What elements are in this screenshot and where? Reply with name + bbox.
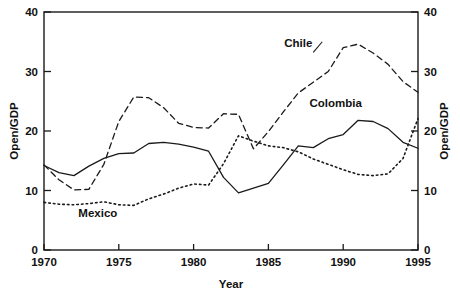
xtick-label-1995: 1995 bbox=[405, 256, 431, 268]
left-ytick-labels: 0 10 20 30 40 bbox=[25, 6, 38, 256]
left-ytick-label-10: 10 bbox=[25, 185, 38, 197]
xtick-label-1980: 1980 bbox=[181, 256, 207, 268]
series-annotations: Chile Colombia Mexico bbox=[78, 37, 362, 219]
right-ytick-label-0: 0 bbox=[424, 244, 430, 256]
series-line-chile bbox=[44, 44, 418, 190]
bottom-axis-ticks bbox=[44, 244, 418, 250]
left-ytick-label-20: 20 bbox=[25, 125, 38, 137]
series-label-mexico: Mexico bbox=[78, 207, 117, 219]
xtick-label-1975: 1975 bbox=[106, 256, 132, 268]
series-line-colombia bbox=[44, 120, 418, 193]
series-line-mexico bbox=[44, 119, 418, 206]
y-axis-title-left: Open/GDP bbox=[8, 102, 20, 160]
open-gdp-line-chart: 0 10 20 30 40 0 10 20 30 40 1970 1975 19… bbox=[0, 0, 460, 297]
right-ytick-label-20: 20 bbox=[424, 125, 437, 137]
xtick-label-1990: 1990 bbox=[330, 256, 356, 268]
series-label-colombia: Colombia bbox=[310, 97, 363, 109]
right-axis-ticks bbox=[411, 12, 418, 250]
xtick-labels: 1970 1975 1980 1985 1990 1995 bbox=[31, 256, 431, 268]
left-axis-ticks bbox=[44, 12, 51, 250]
right-ytick-label-10: 10 bbox=[424, 185, 437, 197]
right-ytick-label-30: 30 bbox=[424, 66, 437, 78]
chile-label-pointer bbox=[313, 42, 322, 53]
chart-figure: 0 10 20 30 40 0 10 20 30 40 1970 1975 19… bbox=[0, 0, 460, 297]
xtick-label-1985: 1985 bbox=[256, 256, 282, 268]
series-label-chile: Chile bbox=[284, 37, 312, 49]
x-axis-title: Year bbox=[219, 278, 244, 290]
left-ytick-label-40: 40 bbox=[25, 6, 38, 18]
y-axis-title-right: Open/GDP bbox=[438, 102, 450, 160]
left-ytick-label-30: 30 bbox=[25, 66, 38, 78]
xtick-label-1970: 1970 bbox=[31, 256, 57, 268]
left-ytick-label-0: 0 bbox=[32, 244, 38, 256]
series-group bbox=[44, 44, 418, 205]
right-ytick-labels: 0 10 20 30 40 bbox=[424, 6, 437, 256]
right-ytick-label-40: 40 bbox=[424, 6, 437, 18]
